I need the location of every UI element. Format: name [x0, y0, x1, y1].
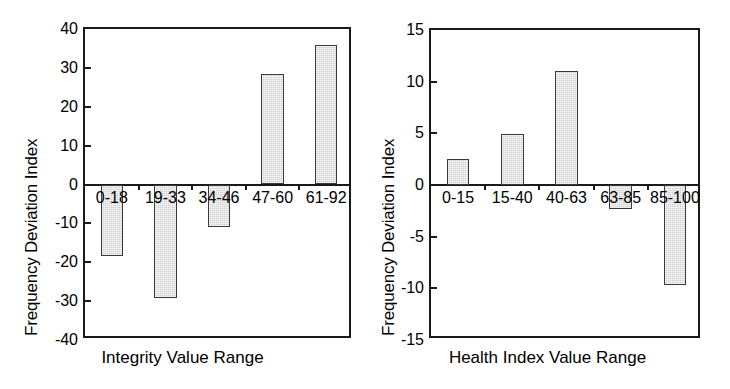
category-label: 19-33 — [145, 189, 186, 207]
y-tick-mark-left — [85, 145, 91, 147]
category-label: 63-85 — [600, 189, 641, 207]
chart-panel-left: Frequency Deviation Index 403020100-10-2… — [0, 0, 365, 389]
category-label: 15-40 — [492, 189, 533, 207]
y-tick-label-right: 10 — [406, 73, 431, 91]
y-tick-mark-left — [85, 222, 91, 224]
plot-area-left: 403020100-10-20-30-400-1819-3334-4647-60… — [83, 27, 351, 338]
bar — [501, 134, 524, 185]
bar — [261, 74, 284, 185]
x-tick-mark-left — [138, 184, 140, 190]
category-label: 85-100 — [650, 189, 700, 207]
plot-area-right: 151050-5-10-150-1515-4040-6363-8585-100 — [429, 28, 700, 338]
chart-panel-right: Frequency Deviation Index 151050-5-10-15… — [365, 0, 730, 389]
x-tick-mark-right — [647, 184, 649, 190]
y-tick-mark-right — [431, 287, 437, 289]
y-tick-label-left: -40 — [55, 331, 85, 349]
y-tick-label-left: -20 — [55, 253, 85, 271]
bar — [447, 159, 470, 185]
x-tick-mark-left — [245, 184, 247, 190]
y-tick-label-left: 30 — [60, 59, 85, 77]
category-label: 0-15 — [442, 189, 474, 207]
y-tick-label-left: -10 — [55, 214, 85, 232]
y-tick-label-right: 0 — [415, 176, 431, 194]
category-label: 40-63 — [546, 189, 587, 207]
y-tick-mark-left — [85, 300, 91, 302]
y-axis-label-right: Frequency Deviation Index — [379, 139, 399, 336]
x-axis-label-left: Integrity Value Range — [0, 348, 365, 368]
x-tick-mark-left — [298, 184, 300, 190]
y-tick-mark-right — [431, 81, 437, 83]
category-label: 47-60 — [252, 189, 293, 207]
x-tick-mark-right — [538, 184, 540, 190]
figure-container: Frequency Deviation Index 403020100-10-2… — [0, 0, 730, 389]
category-label: 0-18 — [96, 189, 128, 207]
y-tick-mark-left — [85, 261, 91, 263]
x-tick-mark-right — [484, 184, 486, 190]
y-tick-label-left: -30 — [55, 292, 85, 310]
bar — [315, 45, 338, 185]
x-tick-mark-right — [593, 184, 595, 190]
y-tick-label-right: 15 — [406, 21, 431, 39]
y-tick-mark-right — [431, 236, 437, 238]
bar — [555, 71, 578, 185]
category-label: 61-92 — [306, 189, 347, 207]
y-tick-label-right: -15 — [401, 331, 431, 349]
y-tick-label-left: 10 — [60, 137, 85, 155]
y-tick-label-left: 40 — [60, 20, 85, 38]
x-axis-label-right: Health Index Value Range — [365, 348, 730, 368]
y-axis-label-left: Frequency Deviation Index — [22, 139, 42, 336]
y-tick-mark-left — [85, 67, 91, 69]
y-tick-label-right: -5 — [410, 228, 431, 246]
y-tick-label-right: 5 — [415, 124, 431, 142]
y-tick-label-left: 0 — [69, 176, 85, 194]
category-label: 34-46 — [199, 189, 240, 207]
y-tick-mark-left — [85, 106, 91, 108]
x-tick-mark-left — [191, 184, 193, 190]
y-tick-label-left: 20 — [60, 98, 85, 116]
y-tick-label-right: -10 — [401, 279, 431, 297]
y-tick-mark-right — [431, 132, 437, 134]
